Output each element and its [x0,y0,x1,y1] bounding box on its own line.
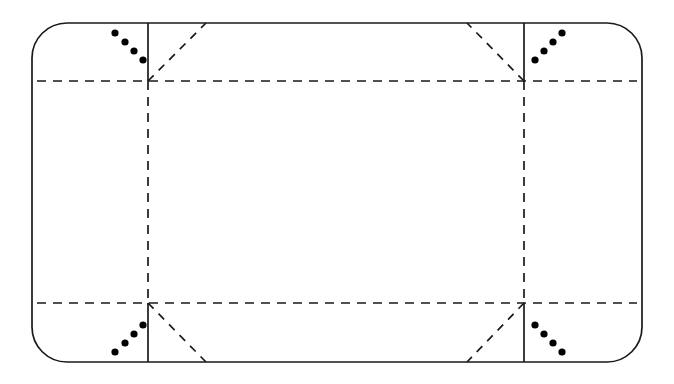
dot-group-top-left [111,29,146,63]
dot-marker [121,38,128,45]
diagonal-top-right [467,23,524,81]
dot-marker [540,47,547,54]
dot-marker [139,56,146,63]
dot-marker [121,339,128,346]
dot-marker [558,348,565,355]
rounded-rectangle-outline [32,23,642,362]
dot-marker [549,38,556,45]
dot-marker [111,29,118,36]
dot-marker [558,29,565,36]
diagonal-bottom-right [467,303,524,362]
diagonal-top-left [148,23,206,81]
dot-marker [111,348,118,355]
diagonal-fold-group [148,23,524,362]
dot-marker [130,47,137,54]
dot-group-top-right [531,29,565,63]
dot-group-bottom-left [111,321,146,355]
dot-marker [540,330,547,337]
dot-group-bottom-right [531,321,565,355]
dot-marker [130,330,137,337]
diagonal-bottom-left [148,303,206,362]
diagram-canvas [0,0,674,384]
dot-marker [531,56,538,63]
dot-marker [531,321,538,328]
dot-marker [139,321,146,328]
dot-marker-group [111,29,565,355]
diagram-svg [0,0,674,384]
guide-segment-group [37,23,637,362]
dot-marker [549,339,556,346]
